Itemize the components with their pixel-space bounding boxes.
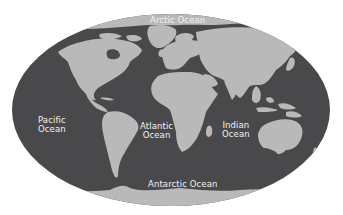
- label-indian-ocean: Indian Ocean: [222, 121, 250, 139]
- pacific-ocean-text-2: Ocean: [38, 125, 66, 134]
- indian-ocean-text-2: Ocean: [222, 130, 250, 139]
- world-map: Arctic Ocean Pacific Ocean Atlantic Ocea…: [0, 0, 343, 215]
- antarctica: [0, 186, 343, 215]
- label-arctic-ocean: Arctic Ocean: [150, 16, 205, 25]
- arctic-ocean-text: Arctic Ocean: [150, 16, 205, 25]
- label-pacific-ocean: Pacific Ocean: [38, 116, 66, 134]
- atlantic-ocean-text-2: Ocean: [140, 131, 173, 140]
- label-atlantic-ocean: Atlantic Ocean: [140, 122, 173, 140]
- label-antarctic-ocean: Antarctic Ocean: [148, 180, 217, 189]
- antarctic-ocean-text: Antarctic Ocean: [148, 180, 217, 189]
